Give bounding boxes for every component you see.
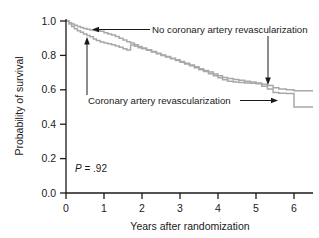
y-axis-title: Probability of survival (13, 56, 25, 155)
lower-annotation-up-arrowhead (84, 37, 90, 45)
survival-chart-figure: 0.00.20.40.60.81.0 0123456 Probability o… (0, 0, 319, 238)
y-tick-label: 0.2 (41, 152, 56, 164)
y-tick-label: 0.4 (41, 118, 56, 130)
y-tick-label: 0.8 (41, 49, 56, 61)
survival-chart-svg: 0.00.20.40.60.81.0 0123456 Probability o… (0, 0, 319, 238)
x-tick-label: 2 (139, 202, 145, 214)
y-axis-ticks (60, 21, 66, 193)
upper-annotation-arrowhead (92, 27, 99, 32)
y-tick-label: 0.6 (41, 83, 56, 95)
x-tick-label: 1 (101, 202, 107, 214)
lower-annotation-group: Coronary artery revascularization (84, 37, 278, 106)
lower-annotation-label: Coronary artery revascularization (88, 95, 231, 106)
x-axis-ticks (66, 193, 294, 199)
x-tick-label: 5 (253, 202, 259, 214)
p-value-annotation: P = .92 (75, 163, 107, 174)
upper-annotation-label: No coronary artery revascularization (152, 24, 308, 35)
y-tick-label: 0.0 (41, 187, 56, 199)
x-tick-label: 3 (177, 202, 183, 214)
y-axis-tick-labels: 0.00.20.40.60.81.0 (41, 15, 56, 199)
x-tick-label: 6 (291, 202, 297, 214)
x-tick-label: 0 (63, 202, 69, 214)
y-tick-label: 1.0 (41, 15, 56, 27)
lower-annotation-right-arrowhead (271, 98, 278, 103)
x-axis-title: Years after randomization (130, 220, 249, 232)
x-axis-tick-labels: 0123456 (63, 202, 297, 214)
p-value-text: = .92 (82, 163, 108, 174)
upper-annotation-group: No coronary artery revascularization (92, 24, 308, 85)
x-tick-label: 4 (215, 202, 221, 214)
